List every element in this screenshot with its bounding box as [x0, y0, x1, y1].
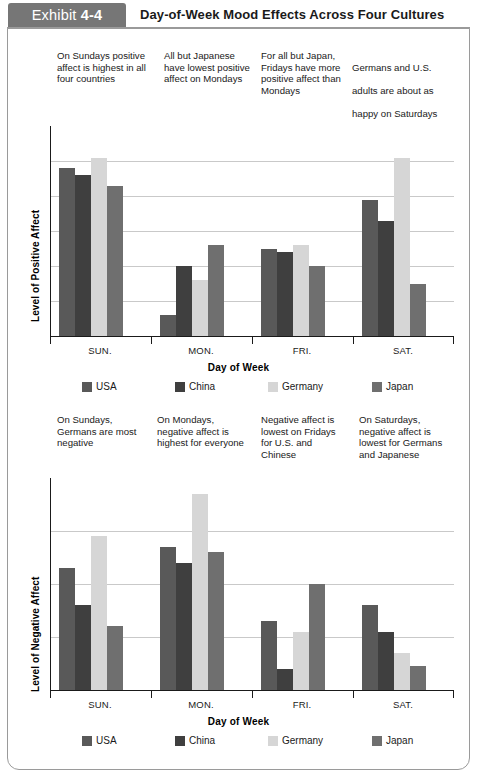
chart2-xlabel-mon: MON. [161, 699, 241, 710]
legend-item-china[interactable]: China [175, 735, 215, 746]
exhibit-page: Exhibit 4-4 Day-of-Week Mood Effects Acr… [0, 0, 477, 776]
bar-group [261, 478, 325, 690]
bar-germany-sun [91, 536, 107, 690]
annotation-4-line1: Germans and U.S. [352, 62, 431, 73]
bar-germany-fri [293, 632, 309, 690]
chart1-xtick-1 [151, 337, 152, 344]
bar-usa-sat [362, 605, 378, 690]
bar-group [160, 478, 224, 690]
legend-item-japan[interactable]: Japan [372, 381, 413, 392]
bar-japan-sat [410, 666, 426, 690]
chart2-xtick-3 [353, 691, 354, 698]
chart2-xtick-1 [151, 691, 152, 698]
chart2-xlabel-sat: SAT. [363, 699, 443, 710]
bar-group [362, 478, 426, 690]
bar-germany-mon [192, 494, 208, 690]
annotation-8: On Saturdays, negative affect is lowest … [359, 414, 463, 460]
bar-china-sun [75, 175, 91, 336]
chart2-xtick-2 [252, 691, 253, 698]
chart1-xlabel-sat: SAT. [363, 345, 443, 356]
bar-group [362, 126, 426, 336]
legend-label: China [189, 381, 215, 392]
legend-item-japan[interactable]: Japan [372, 735, 413, 746]
annotation-6: On Mondays, negative affect is highest f… [157, 414, 261, 460]
bar-china-mon [176, 266, 192, 336]
bar-japan-sun [107, 626, 123, 690]
chart1-y-axis-label: Level of Positive Affect [30, 210, 41, 322]
chart1-xtick-0 [50, 337, 51, 344]
bar-germany-sat [394, 158, 410, 337]
bar-usa-mon [160, 547, 176, 690]
chart2-xlabel-sun: SUN. [60, 699, 140, 710]
legend-item-germany[interactable]: Germany [268, 381, 323, 392]
chart1-xtick-2 [252, 337, 253, 344]
bar-usa-fri [261, 621, 277, 690]
positive-affect-chart: On Sundays positive affect is highest in… [0, 34, 477, 399]
legend-label: Germany [282, 381, 323, 392]
bar-germany-sun [91, 158, 107, 337]
bar-germany-mon [192, 280, 208, 336]
bar-china-sun [75, 605, 91, 690]
legend-swatch-japan-icon [372, 736, 382, 746]
chart1-xlabel-fri: FRI. [262, 345, 342, 356]
bar-china-fri [277, 669, 293, 690]
annotation-7: Negative affect is lowest on Fridays for… [261, 414, 359, 460]
legend-label: USA [96, 381, 117, 392]
chart1-xlabel-sun: SUN. [60, 345, 140, 356]
annotation-4-line3: happy on Saturdays [352, 108, 437, 119]
chart2-xtick-4 [453, 691, 454, 698]
bar-group [59, 126, 123, 336]
annotation-4-line2: adults are about as [352, 85, 434, 96]
chart2-xtick-0 [50, 691, 51, 698]
bar-china-fri [277, 252, 293, 336]
legend-item-china[interactable]: China [175, 381, 215, 392]
legend-swatch-usa-icon [82, 736, 92, 746]
legend-swatch-germany-icon [268, 382, 278, 392]
annotation-5: On Sundays, Germans are most negative [57, 414, 157, 460]
bar-usa-sat [362, 200, 378, 337]
bar-japan-fri [309, 584, 325, 690]
bar-usa-fri [261, 249, 277, 337]
bar-japan-sun [107, 186, 123, 337]
chart2-x-axis-label: Day of Week [0, 716, 477, 727]
chart2-y-axis-label: Level of Negative Affect [30, 577, 41, 692]
chart1-x-axis-label: Day of Week [0, 362, 477, 373]
negative-affect-chart: On Sundays, Germans are most negative On… [0, 402, 477, 767]
bar-germany-sat [394, 653, 410, 690]
bar-china-sat [378, 632, 394, 690]
legend-item-germany[interactable]: Germany [268, 735, 323, 746]
legend-swatch-germany-icon [268, 736, 278, 746]
bar-japan-mon [208, 552, 224, 690]
bar-usa-mon [160, 315, 176, 336]
bar-usa-sun [59, 568, 75, 690]
chart1-xlabel-mon: MON. [161, 345, 241, 356]
bar-group [59, 478, 123, 690]
bar-japan-mon [208, 245, 224, 336]
legend-label: Japan [386, 735, 413, 746]
legend-swatch-japan-icon [372, 382, 382, 392]
exhibit-header: Exhibit 4-4 Day-of-Week Mood Effects Acr… [0, 0, 477, 30]
bar-group [160, 126, 224, 336]
legend-swatch-usa-icon [82, 382, 92, 392]
legend-label: China [189, 735, 215, 746]
legend-label: Japan [386, 381, 413, 392]
bar-usa-sun [59, 168, 75, 336]
chart1-xtick-3 [353, 337, 354, 344]
bar-germany-fri [293, 245, 309, 336]
page-title: Day-of-Week Mood Effects Across Four Cul… [140, 3, 444, 27]
legend-label: USA [96, 735, 117, 746]
bar-japan-sat [410, 284, 426, 337]
chart2-plot-area [50, 478, 454, 691]
legend-label: Germany [282, 735, 323, 746]
exhibit-tab: Exhibit 4-4 [8, 3, 126, 27]
legend-swatch-china-icon [175, 736, 185, 746]
legend-swatch-china-icon [175, 382, 185, 392]
legend-item-usa[interactable]: USA [82, 381, 117, 392]
legend-item-usa[interactable]: USA [82, 735, 117, 746]
bar-china-mon [176, 563, 192, 690]
bar-group [261, 126, 325, 336]
exhibit-tab-label: Exhibit 4-4 [8, 3, 126, 27]
bar-china-sat [378, 221, 394, 337]
bottom-annotations: On Sundays, Germans are most negative On… [57, 414, 477, 460]
chart1-plot-area [50, 126, 454, 337]
